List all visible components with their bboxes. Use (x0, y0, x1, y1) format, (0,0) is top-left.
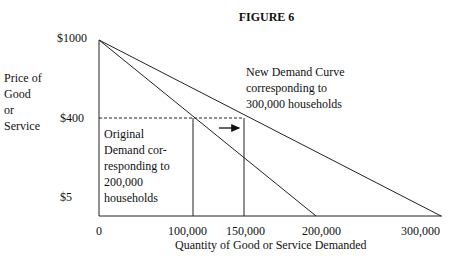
new-demand-curve (99, 40, 441, 216)
original-demand-curve (99, 40, 316, 216)
chart-plot (0, 0, 463, 266)
